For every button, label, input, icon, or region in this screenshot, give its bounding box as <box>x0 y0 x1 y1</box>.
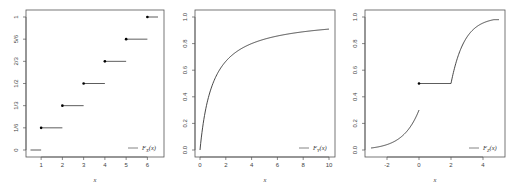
cdf-curve <box>200 29 329 150</box>
y-axis: 0.00.20.40.60.81.0 <box>352 12 365 154</box>
y-tick-label: 0.6 <box>182 65 188 74</box>
cdf-lower-curve <box>371 110 419 148</box>
y-tick-label: 1/3 <box>13 101 19 110</box>
closed-dot <box>104 60 107 63</box>
plot-frame <box>195 10 335 157</box>
y-tick-label: 0.6 <box>352 65 358 74</box>
x-tick-label: 4 <box>481 162 485 168</box>
legend: FX(x) <box>128 144 156 153</box>
y-tick-label: 0.0 <box>352 145 358 154</box>
legend-label: FX(x) <box>141 144 156 153</box>
closed-dot <box>40 127 43 130</box>
x-tick-label: 6 <box>276 162 280 168</box>
legend: FZ(x) <box>469 144 497 153</box>
legend-label: FY(x) <box>312 144 327 153</box>
x-axis-label: x <box>93 176 97 183</box>
x-tick-label: 2 <box>224 162 228 168</box>
y-tick-label: 1/2 <box>13 79 19 88</box>
x-tick-label: 8 <box>302 162 306 168</box>
y-tick-label: 0.8 <box>352 39 358 48</box>
y-tick-label: 2/3 <box>13 57 19 66</box>
x-tick-label: 4 <box>250 162 254 168</box>
legend: FY(x) <box>299 144 327 153</box>
chart-panel-2: 0246810x0.00.20.40.60.81.0FY(x) <box>182 10 335 183</box>
y-tick-label: 0.4 <box>182 92 188 101</box>
y-tick-label: 1 <box>13 15 19 19</box>
y-tick-label: 0.0 <box>182 145 188 154</box>
closed-dot <box>125 38 128 41</box>
y-tick-label: 0.2 <box>182 119 188 128</box>
closed-dot <box>82 82 85 85</box>
x-axis: 0246810x <box>198 157 333 183</box>
y-tick-label: 0 <box>13 148 19 152</box>
x-tick-label: 2 <box>449 162 453 168</box>
y-tick-label: 0.4 <box>352 92 358 101</box>
x-tick-label: 3 <box>82 162 86 168</box>
x-tick-label: 5 <box>124 162 128 168</box>
x-axis: 123456x <box>39 157 149 183</box>
y-tick-label: 0.2 <box>352 119 358 128</box>
closed-dot <box>418 82 421 85</box>
y-axis: 01/61/31/22/35/61 <box>13 15 26 152</box>
x-tick-label: 2 <box>61 162 65 168</box>
x-tick-label: 1 <box>39 162 43 168</box>
closed-dot <box>146 16 149 19</box>
y-tick-label: 5/6 <box>13 34 19 43</box>
cdf-figure: 123456x01/61/31/22/35/61FX(x)0246810x0.0… <box>0 0 515 187</box>
y-tick-label: 0.8 <box>182 39 188 48</box>
chart-panel-3: -2024x0.00.20.40.60.81.0FZ(x) <box>352 10 505 183</box>
x-tick-label: 10 <box>326 162 333 168</box>
x-tick-label: 6 <box>146 162 150 168</box>
data-series <box>371 20 499 148</box>
x-axis: -2024x <box>384 157 485 183</box>
data-series <box>200 29 329 150</box>
x-axis-label: x <box>263 176 267 183</box>
x-tick-label: 0 <box>198 162 202 168</box>
y-tick-label: 1.0 <box>352 12 358 21</box>
x-tick-label: 4 <box>103 162 107 168</box>
y-tick-label: 1.0 <box>182 12 188 21</box>
x-axis-label: x <box>433 176 437 183</box>
y-axis: 0.00.20.40.60.81.0 <box>182 12 195 154</box>
legend-label: FZ(x) <box>482 144 497 153</box>
x-tick-label: -2 <box>384 162 390 168</box>
cdf-upper-curve <box>451 20 499 84</box>
data-series <box>31 16 159 150</box>
chart-panel-1: 123456x01/61/31/22/35/61FX(x) <box>13 10 164 183</box>
y-tick-label: 1/6 <box>13 123 19 132</box>
closed-dot <box>61 104 64 107</box>
x-tick-label: 0 <box>417 162 421 168</box>
